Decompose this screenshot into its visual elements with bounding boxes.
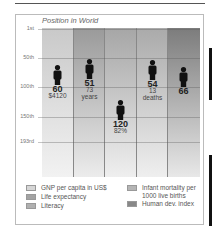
- y-tick-100th: 100th: [8, 83, 34, 89]
- legend-swatch: [127, 185, 137, 191]
- rank-value: 66: [168, 87, 199, 95]
- legend-label: Infant mortality per: [142, 184, 196, 192]
- gridline-1st: [38, 29, 200, 30]
- legend-right: Infant mortality per 1000 live births Hu…: [127, 184, 196, 209]
- legend-item-literacy: Literacy: [26, 202, 107, 211]
- chart-title: Position in World: [42, 16, 98, 25]
- person-icon: [179, 67, 188, 87]
- legend-item-gnp: GNP per capita in US$: [26, 184, 107, 193]
- y-tick-150th: 150th: [8, 113, 34, 119]
- top-rule: [15, 3, 205, 4]
- marker-hdi: 66: [168, 67, 199, 95]
- column-infant-mortality: [137, 28, 168, 177]
- legend-label: Literacy: [41, 202, 64, 209]
- column-hdi: [168, 28, 200, 177]
- person-icon: [53, 65, 62, 85]
- plot-area: 60 $4120 51 73 years 120 82% 54 13 death…: [42, 28, 200, 177]
- gridline-193rd: [38, 142, 200, 143]
- legend-label: Life expectancy: [41, 193, 86, 200]
- legend-label: GNP per capita in US$: [41, 184, 107, 191]
- metric-value: 82%: [105, 128, 136, 135]
- person-icon: [116, 100, 125, 120]
- metric-value: $4120: [42, 93, 73, 100]
- column-gnp: [42, 28, 74, 177]
- legend-label-line2: 1000 live births: [142, 192, 196, 200]
- legend-swatch: [26, 185, 36, 191]
- legend-item-life-expectancy: Life expectancy: [26, 193, 107, 202]
- side-bar-lower: [209, 155, 212, 226]
- legend-left: GNP per capita in US$ Life expectancy Li…: [26, 184, 107, 211]
- person-icon: [148, 60, 157, 80]
- side-bar-upper: [209, 48, 212, 100]
- legend-item-infant-mortality: Infant mortality per 1000 live births: [127, 184, 196, 200]
- y-tick-1st: 1st: [8, 25, 34, 31]
- metric-unit: deaths: [137, 95, 168, 102]
- marker-gnp: 60 $4120: [42, 65, 73, 100]
- column-life-expectancy: [74, 28, 105, 177]
- marker-literacy: 120 82%: [105, 100, 136, 135]
- person-icon: [85, 59, 94, 79]
- marker-life-expectancy: 51 73 years: [74, 59, 105, 100]
- legend-swatch: [26, 194, 36, 200]
- y-tick-50th: 50th: [8, 54, 34, 60]
- legend-swatch: [26, 203, 36, 209]
- marker-infant-mortality: 54 13 deaths: [137, 60, 168, 101]
- legend-item-hdi: Human dev. index: [127, 200, 196, 209]
- gridline-50th: [38, 58, 200, 59]
- metric-unit: years: [74, 94, 105, 101]
- y-tick-193rd: 193rd: [8, 138, 34, 144]
- legend-label: Human dev. index: [142, 200, 194, 207]
- legend-swatch: [127, 201, 137, 207]
